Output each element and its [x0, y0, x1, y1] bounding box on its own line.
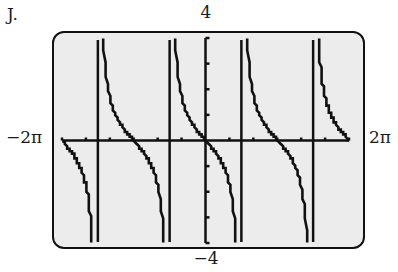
- curve-branch: [319, 38, 348, 141]
- curve-branch: [62, 142, 91, 243]
- plot-area: [0, 0, 398, 272]
